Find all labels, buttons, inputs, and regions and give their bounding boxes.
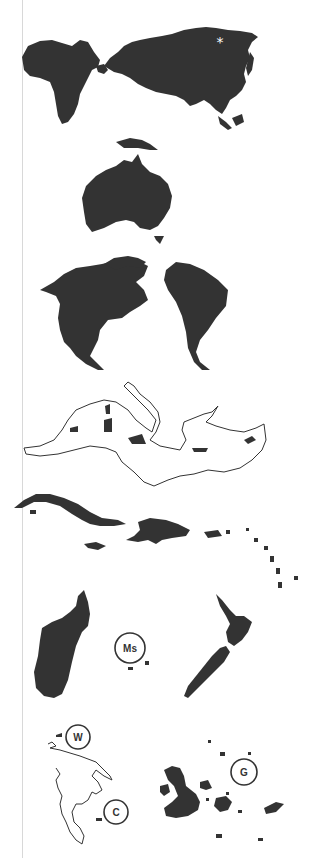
santiago-island (200, 780, 212, 790)
africa-shape (22, 40, 100, 124)
fernandina-island (160, 784, 170, 796)
panel-wallacea-galapagos: W C G (48, 725, 284, 844)
australia-shape (82, 154, 172, 232)
map-figure: * Ms (0, 0, 316, 858)
jamaica-shape (84, 542, 106, 550)
c-label: C (112, 807, 119, 818)
sardinia-shape (104, 418, 112, 432)
balearic-islands (70, 426, 78, 432)
panel-australia (82, 138, 172, 244)
panel-eurasia-africa: * (22, 27, 258, 130)
w-label: W (73, 732, 83, 743)
eurasia-shape (104, 27, 258, 114)
tasmania-shape (154, 236, 164, 244)
asterisk-marker: * (217, 34, 224, 50)
panel-americas (40, 256, 228, 370)
small-islets (206, 740, 263, 841)
mauritius-shape (145, 661, 149, 665)
new-zealand-south-island (184, 646, 230, 698)
new-guinea-shape (116, 138, 158, 150)
isle-of-youth (30, 510, 36, 514)
panel-madagascar-new-zealand: Ms (34, 590, 252, 698)
mascarenes-label: Ms (123, 643, 137, 654)
corsica-shape (105, 404, 110, 414)
hispaniola-shape (126, 518, 190, 544)
c-islets (96, 818, 102, 821)
w-island-outline (48, 742, 112, 844)
cyprus-shape (244, 436, 256, 444)
mediterranean-coastline (24, 382, 266, 486)
puerto-rico-shape (204, 530, 222, 538)
san-cristobal-island (264, 802, 284, 814)
panel-caribbean (14, 494, 298, 588)
sicily-shape (128, 434, 146, 444)
madagascar-shape (34, 590, 90, 698)
w-islet (56, 733, 62, 737)
new-zealand-north-island (216, 594, 252, 646)
north-america-shape (40, 260, 148, 370)
santa-cruz-island (214, 796, 232, 812)
galapagos-label: G (240, 767, 248, 778)
reunion-shape (128, 667, 133, 670)
crete-shape (192, 448, 208, 452)
southeast-asia-islands (218, 114, 244, 130)
panel-mediterranean (24, 382, 266, 486)
south-america-shape (164, 262, 228, 370)
lesser-antilles (226, 528, 298, 588)
